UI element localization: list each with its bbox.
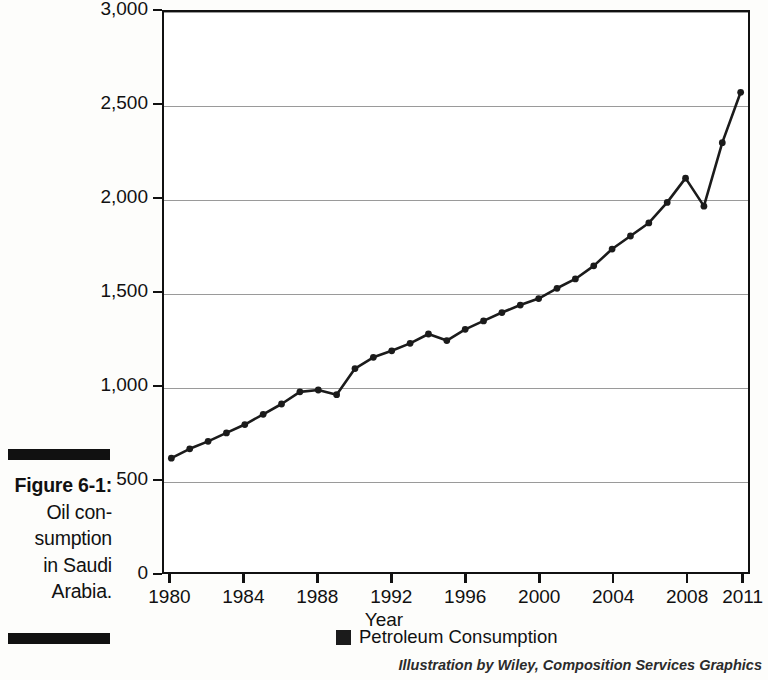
x-tick-mark-2000: [538, 574, 541, 583]
y-tick-mark-2000: [153, 197, 162, 200]
data-point: [645, 220, 652, 227]
data-point: [388, 347, 395, 354]
figure-container: Figure 6-1: Oil con- sumption in Saudi A…: [0, 0, 768, 680]
x-tick-mark-2004: [612, 574, 615, 583]
data-point: [407, 340, 414, 347]
data-point: [315, 387, 322, 394]
data-point: [241, 421, 248, 428]
x-tick-label-2000: 2000: [518, 586, 560, 608]
data-point: [297, 388, 304, 395]
y-tick-label-2000: 2,000: [60, 186, 148, 208]
y-tick-mark-500: [153, 479, 162, 482]
x-tick-mark-2008: [686, 574, 689, 583]
x-tick-mark-1988: [316, 574, 319, 583]
x-tick-mark-1992: [390, 574, 393, 583]
y-tick-label-1500: 1,500: [60, 280, 148, 302]
y-tick-mark-2500: [153, 103, 162, 106]
y-tick-label-500: 500: [60, 468, 148, 490]
x-tick-label-1980: 1980: [148, 586, 190, 608]
x-tick-label-1988: 1988: [296, 586, 338, 608]
data-point: [554, 285, 561, 292]
data-point: [719, 139, 726, 146]
plot-frame: [162, 10, 750, 574]
data-point: [168, 455, 175, 462]
data-point: [370, 354, 377, 361]
data-series-layer: [164, 12, 748, 572]
y-tick-label-3000: 3,000: [60, 0, 148, 20]
data-point: [682, 175, 689, 182]
data-point: [517, 302, 524, 309]
data-point: [664, 199, 671, 206]
data-point: [425, 331, 432, 338]
data-point: [462, 326, 469, 333]
data-point: [223, 430, 230, 437]
y-tick-mark-3000: [153, 9, 162, 12]
legend-label-petroleum-consumption: Petroleum Consumption: [359, 626, 557, 648]
x-tick-mark-2011: [741, 574, 744, 583]
series-line-0: [171, 92, 740, 458]
x-tick-label-2008: 2008: [666, 586, 708, 608]
data-point: [499, 309, 506, 316]
x-tick-label-1992: 1992: [370, 586, 412, 608]
data-point: [352, 365, 359, 372]
y-tick-label-2500: 2,500: [60, 92, 148, 114]
data-point: [333, 391, 340, 398]
data-point: [278, 401, 285, 408]
data-point: [443, 337, 450, 344]
y-tick-mark-1000: [153, 385, 162, 388]
data-point: [535, 295, 542, 302]
x-tick-label-1984: 1984: [222, 586, 264, 608]
x-tick-label-2011: 2011: [722, 586, 763, 608]
x-tick-label-2004: 2004: [592, 586, 634, 608]
data-point: [186, 445, 193, 452]
chart-area: 05001,0001,5002,0002,5003,000 1980198419…: [0, 0, 768, 680]
data-point: [737, 89, 744, 96]
data-point: [627, 233, 634, 240]
x-tick-label-1996: 1996: [444, 586, 486, 608]
x-tick-mark-1980: [168, 574, 171, 583]
illustration-credit: Illustration by Wiley, Composition Servi…: [398, 657, 762, 673]
chart-legend: Petroleum Consumption: [336, 626, 557, 648]
legend-swatch-petroleum-consumption: [336, 630, 351, 645]
y-tick-mark-1500: [153, 291, 162, 294]
x-tick-mark-1984: [242, 574, 245, 583]
data-point: [572, 276, 579, 283]
data-point: [260, 411, 267, 418]
y-tick-label-0: 0: [60, 562, 148, 584]
y-tick-label-1000: 1,000: [60, 374, 148, 396]
data-point: [701, 203, 708, 210]
y-tick-mark-0: [153, 573, 162, 576]
data-point: [590, 262, 597, 269]
data-point: [205, 438, 212, 445]
data-point: [480, 318, 487, 325]
x-tick-mark-1996: [464, 574, 467, 583]
data-point: [609, 246, 616, 253]
